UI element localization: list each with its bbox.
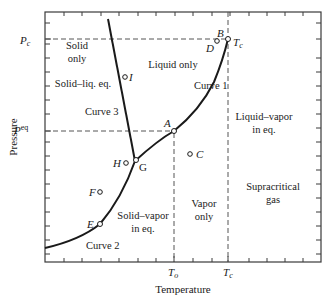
region-solid-only-line1: Solid [66,40,89,51]
x-tick-to: To [168,266,178,280]
curve-2-label: Curve 2 [86,240,120,251]
point-i-label: I [128,71,134,83]
point-h-marker [124,161,129,166]
point-c-label: C [196,148,204,160]
region-liquid-vapor-line1: Liquid–vapor [235,111,293,122]
region-solid-only-line2: only [68,53,87,64]
tc-near-b-label: Tc [233,36,243,50]
point-g-label: G [139,161,147,173]
point-a-label: A [163,117,171,129]
curve-3-solid-liquid [108,19,135,161]
point-f-marker [98,190,103,195]
x-tick-tc: Tc [223,266,233,280]
point-d-label: D [205,42,214,54]
point-i-marker [123,75,128,80]
point-e-marker [98,222,103,227]
region-vapor-only-line1: Vapor [191,198,217,209]
region-solid-liquid-eq: Solid–liq. eq. [55,78,111,89]
phase-diagram: A B C D E F H I Tc G Solid only Solid–li… [0,0,332,302]
region-liquid-vapor-line2: in eq. [252,124,275,135]
curve-2-solid-vapor [45,161,135,248]
region-liquid-only: Liquid only [148,59,198,70]
point-b-marker [226,37,231,42]
point-h-label: H [112,157,122,169]
region-vapor-only-line2: only [195,211,214,222]
point-e-label: E [86,218,94,230]
point-g-marker [134,158,139,163]
point-f-label: F [88,186,96,198]
point-b-label: B [217,27,224,39]
curve-3-label: Curve 3 [85,106,119,117]
y-tick-pc: Pc [19,34,31,48]
point-d-marker [215,39,220,44]
region-supracritical-line2: gas [266,194,280,205]
curve-1-liquid-vapor [135,39,228,161]
region-solid-vapor-line1: Solid–vapor [117,210,169,221]
region-solid-vapor-line2: in eq. [131,223,154,234]
point-c-marker [188,152,193,157]
curve-1-label: Curve 1 [194,80,228,91]
x-axis-title: Temperature [155,283,211,295]
region-supracritical-line1: Supracritical [246,181,300,192]
y-axis-title: Pressure [7,118,19,155]
point-a-marker [172,129,177,134]
